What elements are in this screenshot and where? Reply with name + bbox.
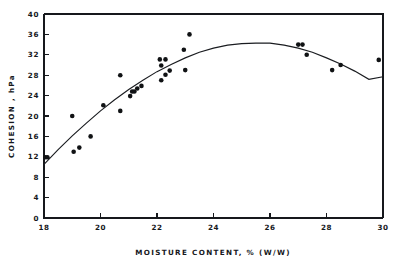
data-point bbox=[135, 86, 140, 91]
x-tick-label: 22 bbox=[151, 223, 162, 232]
y-tick-label: 40 bbox=[28, 10, 39, 19]
y-tick-label: 12 bbox=[28, 152, 39, 161]
data-point bbox=[159, 78, 164, 83]
data-point bbox=[88, 134, 93, 139]
data-point bbox=[158, 57, 163, 62]
y-tick-label: 24 bbox=[28, 91, 39, 100]
y-tick-label: 36 bbox=[28, 30, 39, 39]
data-point bbox=[71, 149, 76, 154]
x-tick-label: 20 bbox=[95, 223, 106, 232]
y-tick-label: 16 bbox=[28, 132, 39, 141]
data-point bbox=[128, 94, 133, 99]
y-tick-label: 4 bbox=[33, 193, 39, 202]
x-axis-label: MOISTURE CONTENT, % (W/W) bbox=[135, 248, 291, 257]
y-axis-label: COHESION , hPa bbox=[7, 74, 16, 158]
data-point bbox=[296, 42, 301, 47]
data-point bbox=[70, 114, 75, 119]
data-point bbox=[77, 145, 82, 150]
x-tick-label: 18 bbox=[38, 223, 49, 232]
data-point bbox=[101, 103, 106, 108]
y-tick-label: 28 bbox=[28, 71, 39, 80]
data-point bbox=[338, 63, 343, 68]
data-point bbox=[187, 32, 192, 37]
y-axis-ticks: 0481216202428323640 bbox=[28, 10, 49, 223]
data-point bbox=[159, 63, 164, 68]
x-tick-label: 24 bbox=[208, 223, 219, 232]
data-point bbox=[118, 73, 123, 78]
y-tick-label: 32 bbox=[28, 50, 39, 59]
y-tick-label: 20 bbox=[28, 112, 39, 121]
data-point bbox=[163, 57, 168, 62]
data-point bbox=[45, 155, 50, 160]
y-tick-label: 8 bbox=[33, 173, 39, 182]
data-point bbox=[163, 72, 168, 77]
data-point bbox=[376, 58, 381, 63]
scatter-plot: 0481216202428323640 18202224262830 COHES… bbox=[0, 0, 403, 263]
x-tick-label: 26 bbox=[264, 223, 275, 232]
data-point bbox=[139, 84, 144, 89]
data-point bbox=[182, 47, 187, 52]
data-point bbox=[330, 68, 335, 73]
x-tick-label: 28 bbox=[321, 223, 332, 232]
y-tick-label: 0 bbox=[33, 214, 39, 223]
data-points bbox=[43, 32, 381, 160]
data-point bbox=[118, 109, 123, 114]
fit-curve bbox=[44, 43, 383, 164]
x-axis-ticks: 18202224262830 bbox=[38, 213, 388, 232]
x-tick-label: 30 bbox=[377, 223, 388, 232]
data-point bbox=[167, 68, 172, 73]
chart-figure: 0481216202428323640 18202224262830 COHES… bbox=[0, 0, 403, 263]
data-point bbox=[304, 53, 309, 58]
data-point bbox=[183, 68, 188, 73]
data-point bbox=[300, 42, 305, 47]
